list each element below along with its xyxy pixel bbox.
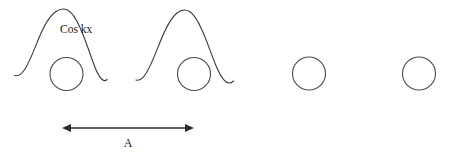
circle-1 [50, 58, 83, 91]
cosine-hump-1-curve [15, 9, 108, 81]
diagram-canvas: Cos kx A [0, 0, 452, 157]
circle-4 [403, 57, 436, 90]
period-label: A [124, 136, 133, 150]
arrow-head-left-icon [62, 124, 71, 132]
arrow-head-right-icon [185, 124, 194, 132]
circle-3 [293, 57, 326, 90]
circle-2 [178, 58, 211, 91]
diagram-svg: Cos kx A [0, 0, 452, 157]
cosine-hump-2-curve [136, 10, 234, 83]
cos-kx-label: Cos kx [60, 23, 93, 35]
